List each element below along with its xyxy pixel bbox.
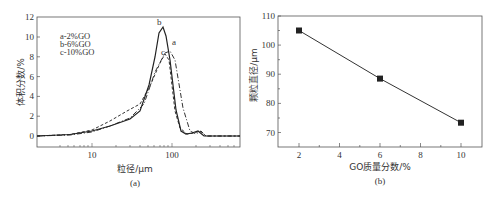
svg-text:8: 8 <box>418 150 423 160</box>
svg-text:100: 100 <box>165 150 179 160</box>
panel-b-ytick-labels: 70 80 90 100 110 <box>262 11 276 138</box>
svg-text:70: 70 <box>266 128 276 138</box>
svg-text:4: 4 <box>30 91 35 101</box>
curve-label-b: b <box>157 17 162 27</box>
svg-text:6: 6 <box>378 150 383 160</box>
svg-text:100: 100 <box>262 40 276 50</box>
svg-text:10: 10 <box>25 32 35 42</box>
panel-a-ylabel: 体积分数/% <box>15 58 26 106</box>
figure: 0 2 4 6 8 10 12 10 100 <box>0 0 494 198</box>
panel-a-ytick-labels: 0 2 4 6 8 10 12 <box>25 12 35 141</box>
svg-text:4: 4 <box>337 150 342 160</box>
svg-text:90: 90 <box>266 69 276 79</box>
svg-text:80: 80 <box>266 98 276 108</box>
marker-10pct <box>458 120 464 126</box>
svg-text:0: 0 <box>30 131 35 141</box>
marker-2pct <box>296 28 302 34</box>
curve-c-10-go <box>37 54 240 136</box>
panel-b: 70 80 90 100 110 2 4 6 8 10 <box>248 11 482 186</box>
panel-b-xlabel: GO质量分数/% <box>349 161 411 172</box>
panel-a-yticks <box>37 37 40 136</box>
svg-text:12: 12 <box>25 12 34 22</box>
panel-b-caption: (b) <box>375 176 386 186</box>
panel-b-xtick-labels: 2 4 6 8 10 <box>297 150 466 160</box>
panel-a: 0 2 4 6 8 10 12 10 100 <box>15 12 240 188</box>
panel-b-yticks <box>278 16 281 133</box>
curve-a-2-go <box>37 51 240 136</box>
curve-label-c: c <box>161 47 165 57</box>
svg-text:2: 2 <box>30 111 35 121</box>
panel-a-xticks <box>60 143 234 147</box>
panel-a-xtick-labels: 10 100 <box>88 150 180 160</box>
legend-item-c: c-10%GO <box>60 47 94 57</box>
panel-a-caption: (a) <box>130 178 140 188</box>
curve-label-a: a <box>172 37 176 47</box>
svg-text:10: 10 <box>457 150 467 160</box>
svg-text:6: 6 <box>30 72 35 82</box>
svg-text:2: 2 <box>297 150 302 160</box>
panel-b-xticks <box>299 143 461 147</box>
svg-text:8: 8 <box>30 52 35 62</box>
panel-a-legend: a-2%GO b-6%GO c-10%GO <box>60 31 94 57</box>
panel-a-xlabel: 粒径/μm <box>117 163 153 174</box>
marker-6pct <box>377 76 383 82</box>
svg-text:110: 110 <box>262 11 276 21</box>
panel-b-ylabel: 颗粒直径/μm <box>248 48 259 102</box>
svg-text:10: 10 <box>88 150 98 160</box>
